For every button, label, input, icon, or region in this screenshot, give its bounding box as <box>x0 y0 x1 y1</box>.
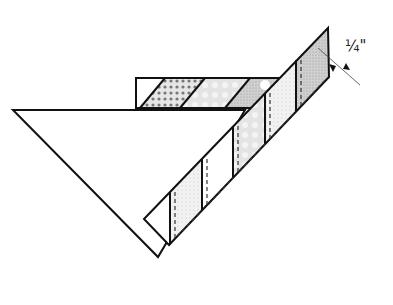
seam-allowance-label: ¼" <box>345 37 366 55</box>
diagram-svg <box>0 0 393 305</box>
quilt-diagram: ¼" <box>0 0 393 305</box>
